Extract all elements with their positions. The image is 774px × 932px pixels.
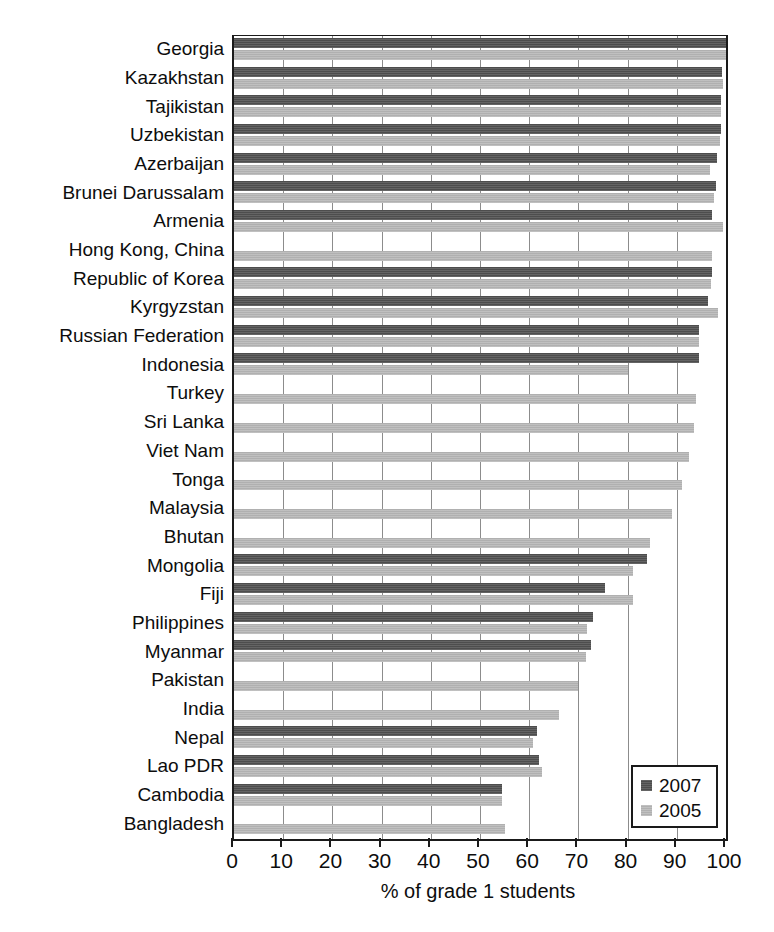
bar-2007 bbox=[234, 554, 647, 564]
bar-2007 bbox=[234, 67, 722, 77]
bar-group bbox=[234, 380, 726, 409]
bar-2007 bbox=[234, 153, 717, 163]
y-axis-tick-label: Lao PDR bbox=[10, 756, 232, 775]
bar-group bbox=[234, 65, 726, 94]
y-axis-tick-label: Russian Federation bbox=[10, 326, 232, 345]
y-axis-tick-label: Armenia bbox=[10, 211, 232, 230]
bar-2005 bbox=[234, 452, 689, 462]
bar-2005 bbox=[234, 222, 723, 232]
plot-area bbox=[232, 35, 728, 841]
bar-2005 bbox=[234, 796, 502, 806]
bar-2005 bbox=[234, 50, 726, 60]
bar-2007 bbox=[234, 612, 593, 622]
x-axis-tick-mark bbox=[625, 838, 627, 847]
bar-group bbox=[234, 208, 726, 237]
bar-2007 bbox=[234, 296, 708, 306]
bar-2007 bbox=[234, 325, 699, 335]
y-axis-tick-label: Mongolia bbox=[10, 556, 232, 575]
bar-2005 bbox=[234, 767, 542, 777]
bar-2007 bbox=[234, 124, 721, 134]
bar-group bbox=[234, 122, 726, 151]
x-axis-tick-label: 40 bbox=[417, 849, 440, 872]
x-axis-title: % of grade 1 students bbox=[232, 880, 724, 902]
bar-2005 bbox=[234, 566, 633, 576]
legend: 2007 2005 bbox=[631, 765, 718, 828]
bar-2005 bbox=[234, 652, 586, 662]
x-axis-tick-mark bbox=[231, 838, 233, 847]
bar-group bbox=[234, 552, 726, 581]
bar-2007 bbox=[234, 267, 712, 277]
dark-grey-swatch-icon bbox=[641, 780, 652, 791]
bar-2005 bbox=[234, 279, 711, 289]
bar-group bbox=[234, 724, 726, 753]
x-axis-tick-mark bbox=[477, 838, 479, 847]
bar-2007 bbox=[234, 210, 712, 220]
bar-group bbox=[234, 294, 726, 323]
bar-2007 bbox=[234, 95, 721, 105]
bar-2005 bbox=[234, 193, 714, 203]
bar-2005 bbox=[234, 337, 699, 347]
bar-2005 bbox=[234, 710, 559, 720]
x-axis-tick-label: 100 bbox=[706, 849, 741, 872]
bar-2005 bbox=[234, 824, 505, 834]
y-axis-tick-label: Bangladesh bbox=[10, 814, 232, 833]
legend-label-2005: 2005 bbox=[659, 801, 701, 820]
x-axis-tick-mark bbox=[674, 838, 676, 847]
bar-group bbox=[234, 696, 726, 725]
bar-2005 bbox=[234, 251, 712, 261]
x-axis-tick-label: 80 bbox=[614, 849, 637, 872]
y-axis-tick-label: Georgia bbox=[10, 39, 232, 58]
y-axis-tick-label: Azerbaijan bbox=[10, 154, 232, 173]
bar-group bbox=[234, 151, 726, 180]
bar-group bbox=[234, 237, 726, 266]
bar-group bbox=[234, 610, 726, 639]
bar-group bbox=[234, 36, 726, 65]
bar-2005 bbox=[234, 394, 696, 404]
legend-entry-2005: 2005 bbox=[641, 798, 716, 823]
y-axis-tick-label: Uzbekistan bbox=[10, 125, 232, 144]
x-axis-tick-label: 60 bbox=[516, 849, 539, 872]
y-axis-tick-label: Indonesia bbox=[10, 355, 232, 374]
bar-2007 bbox=[234, 726, 537, 736]
y-axis-tick-label: Malaysia bbox=[10, 498, 232, 517]
bar-group bbox=[234, 638, 726, 667]
light-grey-swatch-icon bbox=[641, 805, 652, 816]
x-axis-tick-label: 50 bbox=[466, 849, 489, 872]
bar-2007 bbox=[234, 784, 502, 794]
y-axis-tick-label: Nepal bbox=[10, 728, 232, 747]
x-axis-tick-mark bbox=[329, 838, 331, 847]
legend-label-2007: 2007 bbox=[659, 776, 701, 795]
y-axis-tick-label: Turkey bbox=[10, 383, 232, 402]
bar-2005 bbox=[234, 538, 650, 548]
bar-group bbox=[234, 265, 726, 294]
bar-group bbox=[234, 667, 726, 696]
bar-2007 bbox=[234, 353, 699, 363]
bar-2005 bbox=[234, 738, 533, 748]
bar-2005 bbox=[234, 365, 628, 375]
bar-group bbox=[234, 466, 726, 495]
x-axis-tick-label: 0 bbox=[226, 849, 238, 872]
y-axis-category-labels: GeorgiaKazakhstanTajikistanUzbekistanAze… bbox=[0, 35, 232, 838]
bar-group bbox=[234, 323, 726, 352]
x-axis-tick-mark bbox=[428, 838, 430, 847]
legend-entry-2007: 2007 bbox=[641, 773, 716, 798]
bar-2007 bbox=[234, 583, 605, 593]
y-axis-tick-label: Fiji bbox=[10, 584, 232, 603]
bar-2005 bbox=[234, 509, 672, 519]
x-axis-tick-label: 10 bbox=[270, 849, 293, 872]
bar-2005 bbox=[234, 423, 694, 433]
x-axis-tick-mark bbox=[526, 838, 528, 847]
bar-2005 bbox=[234, 681, 578, 691]
y-axis-tick-label: Tonga bbox=[10, 470, 232, 489]
bar-2005 bbox=[234, 480, 682, 490]
bar-2005 bbox=[234, 79, 723, 89]
y-axis-tick-label: Bhutan bbox=[10, 527, 232, 546]
y-axis-tick-label: Hong Kong, China bbox=[10, 240, 232, 259]
bar-2007 bbox=[234, 755, 539, 765]
x-axis-tick-label: 70 bbox=[565, 849, 588, 872]
bar-2005 bbox=[234, 136, 720, 146]
chart-page: GeorgiaKazakhstanTajikistanUzbekistanAze… bbox=[0, 0, 774, 932]
x-axis-tick-label: 30 bbox=[368, 849, 391, 872]
bar-2005 bbox=[234, 308, 718, 318]
bar-group bbox=[234, 351, 726, 380]
